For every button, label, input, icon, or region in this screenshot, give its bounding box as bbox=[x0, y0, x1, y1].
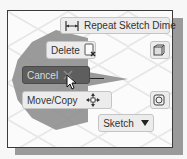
rotate-button[interactable] bbox=[150, 91, 170, 109]
marking-menu-pointer-line bbox=[90, 78, 104, 79]
rotate-icon bbox=[153, 94, 165, 106]
cancel-label: Cancel bbox=[27, 70, 58, 81]
mouse-cursor-icon bbox=[66, 74, 78, 90]
delete-button[interactable]: Delete bbox=[46, 41, 96, 59]
frame-shadow-right bbox=[173, 18, 183, 155]
box-icon bbox=[153, 44, 165, 56]
move-copy-button[interactable]: Move/Copy bbox=[22, 91, 112, 109]
delete-icon bbox=[84, 43, 96, 57]
move-copy-label: Move/Copy bbox=[27, 95, 78, 106]
dimension-icon bbox=[65, 20, 79, 32]
repeat-sketch-dimension-button[interactable]: Repeat Sketch Dime bbox=[60, 17, 170, 34]
frame-shadow-bottom bbox=[15, 147, 183, 155]
delete-label: Delete bbox=[51, 45, 80, 56]
sketch-label: Sketch bbox=[103, 118, 134, 129]
sketch-dropdown-button[interactable]: Sketch bbox=[98, 114, 154, 132]
move-icon bbox=[86, 93, 100, 107]
caret-down-icon bbox=[141, 120, 149, 126]
cancel-button[interactable]: Cancel bbox=[22, 66, 90, 84]
repeat-sketch-dimension-label: Repeat Sketch Dime bbox=[84, 20, 176, 31]
box-button[interactable] bbox=[150, 41, 170, 59]
